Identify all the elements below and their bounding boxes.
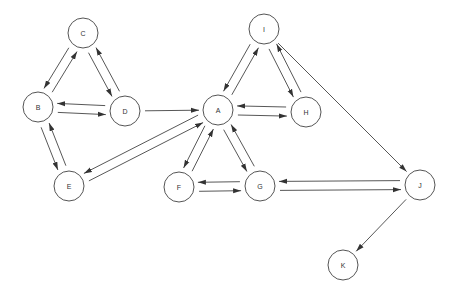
node-a: A [203,95,233,125]
node-label: D [122,108,127,115]
node-f: F [164,172,194,202]
node-label: B [36,104,41,111]
node-label: F [177,184,181,191]
node-label: A [216,107,221,114]
edges-layer [41,43,407,251]
node-d: D [110,96,140,126]
node-i: I [249,14,279,44]
node-b: B [23,92,53,122]
node-label: I [263,26,265,33]
node-h: H [291,97,321,127]
edge-a-to-i [232,48,259,95]
node-label: K [341,262,346,269]
edge-e-to-a [89,123,203,181]
node-g: G [245,171,275,201]
edge-a-to-f [184,126,205,168]
edge-g-to-f [198,182,240,183]
edge-j-to-k [356,199,406,251]
directed-graph-diagram: CBDEAHIFGJK [0,0,453,296]
node-label: E [67,183,72,190]
edge-i-to-a [224,44,251,91]
edge-g-to-j [280,190,401,191]
node-label: C [80,30,85,37]
edge-a-to-g [224,130,247,172]
edge-c-to-b [44,48,69,89]
edge-d-to-b [57,103,105,105]
node-k: K [328,250,358,280]
node-label: G [257,183,262,190]
edge-b-to-c [52,52,77,93]
edge-i-to-h [269,49,293,97]
edge-e-to-b [49,123,66,166]
edge-c-to-d [89,53,113,97]
edge-h-to-a [237,106,286,107]
edge-f-to-a [192,129,213,171]
edge-b-to-e [41,127,58,170]
node-label: H [303,109,308,116]
edge-d-to-c [96,48,120,92]
node-c: C [68,18,98,48]
edge-a-to-e [84,115,198,173]
node-e: E [54,171,84,201]
nodes-layer: CBDEAHIFGJK [23,14,435,280]
edge-a-to-h [238,115,287,116]
edge-g-to-a [231,125,254,167]
node-j: J [405,170,435,200]
edge-j-to-g [279,181,400,182]
edge-h-to-i [277,44,301,92]
edge-b-to-d [58,112,106,114]
node-label: J [418,182,422,189]
edge-f-to-g [199,191,241,192]
edge-d-to-a [145,110,199,111]
